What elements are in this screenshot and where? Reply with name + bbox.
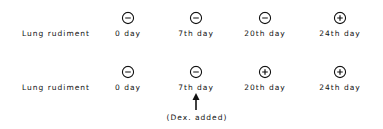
plus-circle-icon [334,66,347,79]
minus-circle-icon [190,66,203,79]
day-label: 0 day [115,29,141,38]
minus-circle-icon [122,12,135,25]
day-label: 24th day [319,83,360,92]
minus-circle-icon [259,12,272,25]
up-arrow-icon [190,93,202,111]
plus-circle-icon [334,12,347,25]
day-label: 20th day [244,83,285,92]
day-label: 7th day [178,29,214,38]
dex-added-annotation: (Dex. added) [167,113,228,122]
day-label: 20th day [244,29,285,38]
minus-circle-icon [122,66,135,79]
row-label: Lung rudiment [22,83,90,92]
day-label: 0 day [115,83,141,92]
day-label: 7th day [178,83,214,92]
plus-circle-icon [259,66,272,79]
row-label: Lung rudiment [22,29,90,38]
day-label: 24th day [319,29,360,38]
minus-circle-icon [190,12,203,25]
